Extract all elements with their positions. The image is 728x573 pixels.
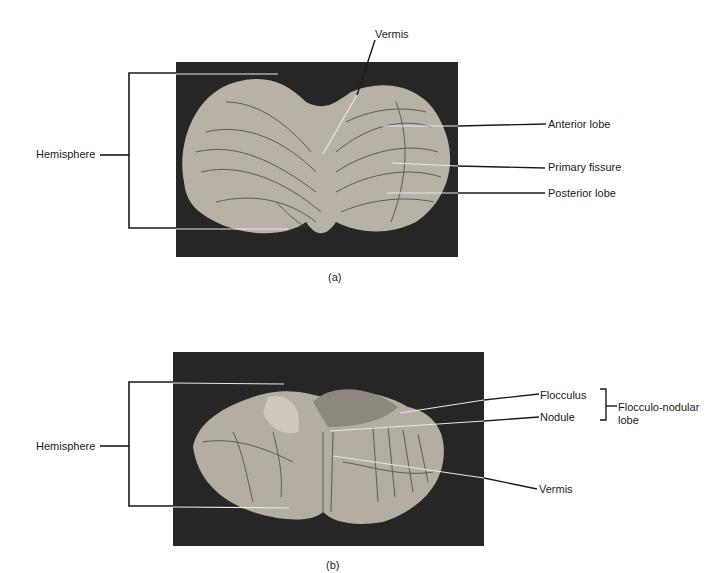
label-hemisphere-a: Hemisphere [36, 148, 95, 161]
label-primary-fissure: Primary fissure [548, 161, 621, 174]
label-hemisphere-b: Hemisphere [36, 440, 95, 453]
cerebellum-inferior-illustration [173, 352, 484, 546]
label-posterior-lobe: Posterior lobe [548, 187, 616, 200]
label-vermis-a: Vermis [375, 28, 409, 41]
caption-a: (a) [328, 271, 341, 283]
photo-a-cerebellum-superior [176, 62, 458, 257]
label-flocculo-nodular-lobe-line2: lobe [618, 414, 639, 427]
label-flocculus: Flocculus [540, 389, 586, 402]
label-anterior-lobe: Anterior lobe [548, 118, 610, 131]
cerebellum-superior-illustration [176, 62, 458, 257]
caption-b: (b) [326, 559, 339, 571]
label-nodule: Nodule [540, 411, 575, 424]
label-flocculo-nodular-lobe-line1: Flocculo-nodular [618, 401, 699, 414]
photo-b-cerebellum-inferior [173, 352, 484, 546]
label-vermis-b: Vermis [539, 483, 573, 496]
